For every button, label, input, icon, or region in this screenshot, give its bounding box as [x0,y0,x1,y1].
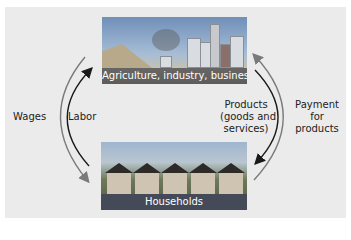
products-label: Products (goods and services) [220,99,272,135]
payment-label-line3: products [293,123,341,135]
payment-label: Payment for products [293,99,341,135]
products-label-line3: services) [220,123,272,135]
labor-label: Labor [68,111,96,123]
payment-label-line2: for [293,111,341,123]
wages-label: Wages [13,111,46,123]
payment-label-line1: Payment [293,99,341,111]
products-label-line2: (goods and [220,111,272,123]
products-label-line1: Products [220,99,272,111]
